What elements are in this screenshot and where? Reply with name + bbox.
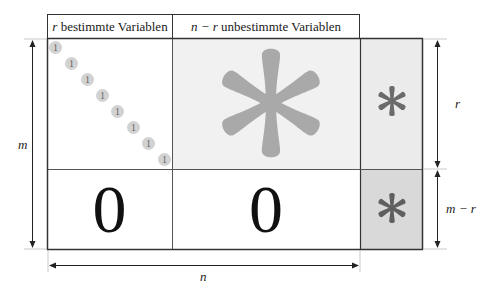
dimension-m-minus-r-label: m − r (446, 201, 476, 217)
grid-and-dimension-lines (0, 0, 490, 291)
dimension-r-label: r (455, 96, 460, 112)
dimension-m-label: m (18, 137, 27, 153)
dimension-n-label: n (200, 269, 207, 285)
